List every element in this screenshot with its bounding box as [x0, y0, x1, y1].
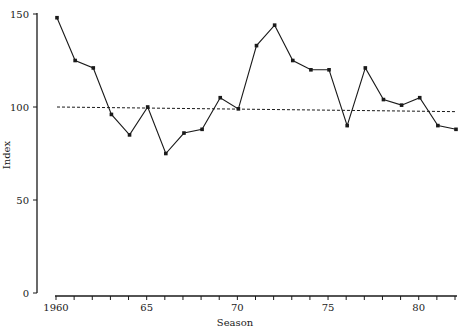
x-ticks: 196065707580 [43, 296, 455, 313]
data-point [146, 105, 150, 109]
data-point [327, 68, 331, 72]
y-axis-label: Index [1, 140, 12, 169]
data-point [237, 107, 241, 111]
y-tick-label: 50 [16, 195, 29, 206]
data-point [382, 98, 386, 102]
data-point [55, 16, 59, 20]
y-tick-label: 150 [10, 9, 29, 20]
data-point [309, 68, 313, 72]
y-tick-label: 0 [23, 288, 29, 299]
data-point [91, 66, 95, 70]
data-point [436, 124, 440, 128]
data-point [200, 128, 204, 132]
data-point [110, 113, 114, 117]
data-point [364, 66, 368, 70]
x-tick-label: 70 [231, 302, 244, 313]
data-point [273, 23, 277, 27]
data-point [182, 131, 186, 135]
data-point [454, 128, 458, 132]
data-point [164, 152, 168, 156]
y-tick-label: 100 [10, 102, 29, 113]
y-axis: 050100150 Index [1, 9, 37, 299]
data-point [73, 59, 77, 63]
data-point [255, 44, 259, 48]
data-point [128, 133, 132, 137]
x-axis: 196065707580 Season [43, 296, 457, 328]
index-series-line [57, 18, 456, 154]
data-point [418, 96, 422, 100]
data-point [291, 59, 295, 63]
data-point [345, 124, 349, 128]
line-chart: 050100150 Index 196065707580 Season [0, 0, 463, 330]
x-axis-label: Season [217, 317, 254, 328]
x-tick-label: 1960 [43, 302, 68, 313]
x-tick-label: 65 [140, 302, 153, 313]
data-point-markers [55, 16, 458, 155]
data-point [400, 103, 404, 107]
data-point [218, 96, 222, 100]
x-tick-label: 80 [412, 302, 425, 313]
x-tick-label: 75 [322, 302, 335, 313]
y-ticks: 050100150 [10, 9, 37, 299]
trend-line [57, 107, 456, 112]
